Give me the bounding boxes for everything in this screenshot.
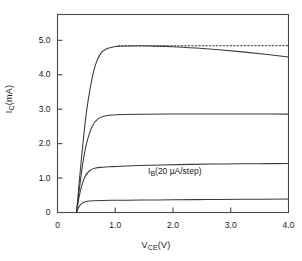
annotation-subscript: B — [150, 170, 155, 177]
x-axis-label-unit: (V) — [158, 240, 171, 250]
y-axis-label: IC(mA) — [4, 77, 14, 121]
y-axis-label-symbol: I — [4, 110, 14, 113]
x-axis-label: VCE(V) — [126, 240, 186, 250]
y-tick-label: 2.0 — [25, 138, 51, 148]
y-tick-label: 4.0 — [25, 69, 51, 79]
x-axis-label-subscript: CE — [148, 244, 158, 251]
x-tick-label: 3.0 — [218, 220, 244, 230]
x-axis-label-symbol: V — [142, 240, 148, 250]
base-current-annotation: IB(20 µA/step) — [148, 166, 202, 176]
x-tick-label: 2.0 — [160, 220, 186, 230]
x-tick-label: 4.0 — [276, 220, 302, 230]
x-tick-label: 0 — [45, 220, 71, 230]
y-axis-label-unit: (mA) — [4, 85, 14, 105]
y-tick-label: 3.0 — [25, 104, 51, 114]
y-axis-label-subscript: C — [8, 105, 15, 110]
y-tick-label: 0 — [25, 207, 51, 217]
y-tick-label: 1.0 — [25, 173, 51, 183]
x-tick-label: 1.0 — [102, 220, 128, 230]
y-tick-label: 5.0 — [25, 35, 51, 45]
annotation-text: (20 µA/step) — [155, 166, 201, 176]
